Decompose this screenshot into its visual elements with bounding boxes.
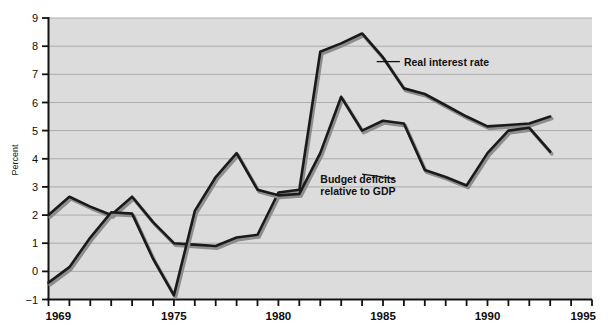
y-tick-label: −1 bbox=[25, 294, 38, 306]
y-tick-label: 2 bbox=[32, 209, 38, 221]
y-axis-label: Percent bbox=[10, 144, 20, 176]
y-tick-label: 1 bbox=[32, 237, 38, 249]
line-chart-svg: −10123456789 196919751980198519901995 Pe… bbox=[0, 0, 612, 325]
y-tick-label: 0 bbox=[32, 265, 38, 277]
y-tick-label: 6 bbox=[32, 97, 38, 109]
y-tick-label: 4 bbox=[32, 153, 38, 165]
y-tick-label: 8 bbox=[32, 40, 38, 52]
annotation-real-interest-rate: Real interest rate bbox=[404, 56, 489, 68]
x-tick-label: 1975 bbox=[161, 310, 187, 322]
x-tick-label: 1980 bbox=[266, 310, 292, 322]
x-tick-label: 1969 bbox=[46, 310, 72, 322]
annotation-budget-deficits-line2: relative to GDP bbox=[320, 185, 395, 197]
x-tick-label: 1985 bbox=[370, 310, 396, 322]
y-tick-label: 7 bbox=[32, 68, 38, 80]
y-tick-label: 3 bbox=[32, 181, 38, 193]
chart-figure: −10123456789 196919751980198519901995 Pe… bbox=[0, 0, 612, 325]
x-tick-label: 1990 bbox=[475, 310, 501, 322]
x-axis-tick-labels: 196919751980198519901995 bbox=[46, 310, 597, 322]
y-axis-tick-labels: −10123456789 bbox=[25, 12, 38, 306]
x-tick-label: 1995 bbox=[570, 310, 596, 322]
y-tick-label: 5 bbox=[32, 125, 38, 137]
annotation-budget-deficits-line1: Budget deficits bbox=[320, 173, 396, 185]
y-tick-label: 9 bbox=[32, 12, 38, 24]
